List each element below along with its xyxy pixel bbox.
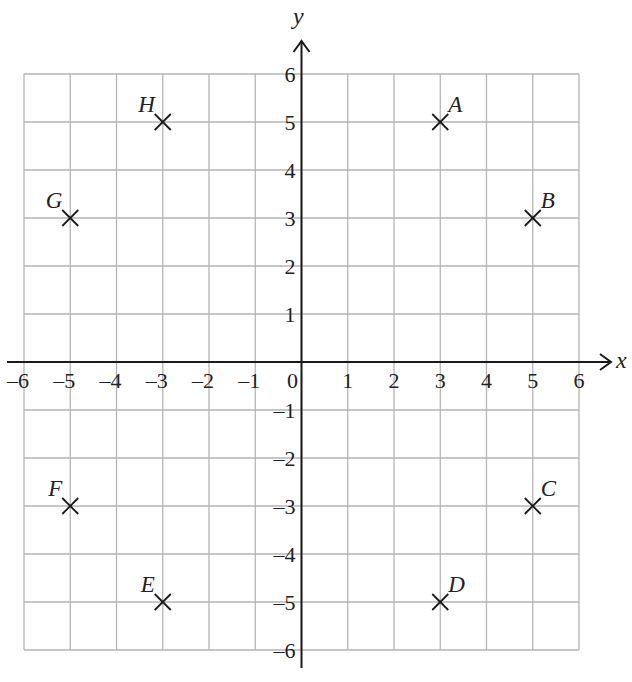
- y-tick-label: 2: [285, 254, 296, 279]
- point-e: E: [140, 572, 171, 610]
- point-label: D: [447, 572, 465, 597]
- point-c: C: [525, 476, 557, 514]
- y-axis-label: y: [291, 3, 304, 29]
- x-tick-label: –4: [99, 368, 122, 393]
- y-tick-label: –5: [273, 590, 296, 615]
- x-tick-label: –1: [237, 368, 260, 393]
- x-tick-label: –5: [52, 368, 75, 393]
- x-axis-ticks: –6–5–4–3–2–10123456: [6, 368, 585, 393]
- point-label: A: [446, 92, 463, 117]
- x-tick-label: 4: [481, 368, 492, 393]
- coordinate-grid-chart: –6–5–4–3–2–10123456 654321–1–2–3–4–5–6 A…: [0, 0, 632, 682]
- x-tick-label: 3: [435, 368, 446, 393]
- y-tick-label: –2: [273, 446, 296, 471]
- axes: [7, 41, 611, 668]
- y-tick-label: 6: [285, 62, 296, 87]
- y-tick-label: –1: [273, 398, 296, 423]
- y-tick-label: 5: [285, 110, 296, 135]
- y-tick-label: –4: [273, 542, 296, 567]
- point-g: G: [46, 188, 79, 226]
- point-label: F: [47, 476, 63, 501]
- point-h: H: [137, 92, 171, 130]
- y-tick-label: 4: [285, 158, 296, 183]
- y-tick-label: 1: [285, 302, 296, 327]
- x-tick-label: 0: [287, 368, 298, 393]
- point-d: D: [432, 572, 465, 610]
- point-label: E: [140, 572, 155, 597]
- point-label: C: [541, 476, 557, 501]
- x-tick-label: 1: [342, 368, 353, 393]
- point-label: B: [541, 188, 555, 213]
- x-tick-label: –2: [191, 368, 214, 393]
- point-label: G: [46, 188, 63, 213]
- point-b: B: [525, 188, 555, 226]
- x-tick-label: –3: [145, 368, 168, 393]
- y-tick-label: –6: [273, 638, 296, 663]
- y-tick-label: 3: [285, 206, 296, 231]
- point-a: A: [432, 92, 463, 130]
- point-f: F: [47, 476, 78, 514]
- x-tick-label: 5: [527, 368, 538, 393]
- x-tick-label: –6: [6, 368, 29, 393]
- x-axis-label: x: [615, 347, 627, 373]
- y-tick-label: –3: [273, 494, 296, 519]
- x-tick-label: 6: [574, 368, 585, 393]
- point-label: H: [137, 92, 156, 117]
- x-tick-label: 2: [389, 368, 400, 393]
